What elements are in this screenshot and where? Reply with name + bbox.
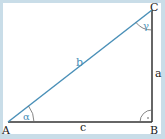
vertex-label-b: B	[150, 124, 158, 137]
right-angle-dot	[147, 117, 149, 119]
angle-label-gamma: γ	[143, 20, 149, 31]
angle-right-arc	[140, 110, 152, 122]
side-label-b: b	[76, 56, 83, 69]
triangle-diagram: A B C b a c α γ	[0, 0, 165, 139]
vertex-label-a: A	[1, 124, 11, 137]
vertex-label-c: C	[150, 1, 158, 14]
side-label-c: c	[80, 121, 86, 134]
angle-label-alpha: α	[23, 111, 30, 122]
side-label-a: a	[155, 67, 162, 80]
